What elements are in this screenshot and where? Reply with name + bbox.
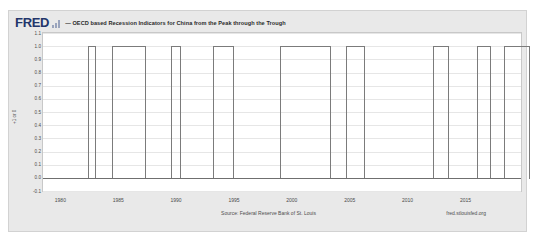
recession-bar — [213, 46, 233, 179]
bar-chart-icon — [52, 19, 62, 28]
plot-area — [42, 32, 522, 192]
recession-bar — [88, 46, 97, 179]
recession-bar — [504, 46, 530, 179]
y-axis-tick: 0.4 — [13, 123, 41, 128]
x-axis-tick: 2000 — [286, 197, 297, 203]
y-axis-tick: 0.3 — [13, 136, 41, 141]
recession-bar — [280, 46, 331, 179]
x-axis-tick: 1990 — [171, 197, 182, 203]
y-axis-tick: 0.5 — [13, 110, 41, 115]
x-axis-tick: 1985 — [113, 197, 124, 203]
y-axis-tick: 0.6 — [13, 96, 41, 101]
y-axis-tick: 0.9 — [13, 57, 41, 62]
y-axis-tick: 0.7 — [13, 83, 41, 88]
recession-bar — [346, 46, 365, 179]
recession-bar — [433, 46, 449, 179]
x-axis-tick: 2010 — [402, 197, 413, 203]
grid-line — [43, 33, 521, 34]
y-axis-tick: 0.0 — [13, 175, 41, 180]
x-axis-tick: 2005 — [344, 197, 355, 203]
fred-chart-screenshot: FRED — OECD based Recession Indicators f… — [0, 0, 535, 244]
x-axis-tick: 2015 — [460, 197, 471, 203]
recession-bar — [112, 46, 146, 179]
y-axis-tick: -0.1 — [13, 189, 41, 194]
fred-url-label[interactable]: fred.stlouisfed.org — [446, 210, 486, 216]
zero-baseline — [43, 178, 521, 179]
y-axis-tick: 0.2 — [13, 149, 41, 154]
chart-series-title: — OECD based Recession Indicators for Ch… — [65, 19, 285, 27]
x-axis-tick: 1995 — [228, 197, 239, 203]
recession-bar — [477, 46, 491, 179]
chart-card: FRED — OECD based Recession Indicators f… — [8, 10, 527, 232]
chart-header: FRED — OECD based Recession Indicators f… — [15, 16, 286, 29]
x-axis: 19801985199019952000200520102015 — [42, 197, 522, 205]
x-axis-tick: 1980 — [55, 197, 66, 203]
y-axis-tick: 0.1 — [13, 162, 41, 167]
y-axis: +1 or 0 1.11.00.90.80.70.60.50.40.30.20.… — [13, 32, 41, 192]
grid-line — [43, 191, 521, 192]
recession-bar — [171, 46, 181, 179]
y-axis-tick: 1.1 — [13, 31, 41, 36]
y-axis-tick: 0.8 — [13, 70, 41, 75]
y-axis-tick: 1.0 — [13, 44, 41, 49]
fred-logo[interactable]: FRED — [15, 16, 49, 29]
